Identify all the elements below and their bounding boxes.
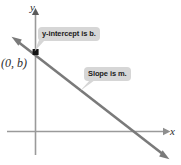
callout-slope: Slope is m.: [84, 67, 131, 81]
callout-tail-slope: [80, 80, 95, 92]
y-axis-label: y: [30, 2, 35, 13]
callout-y-intercept: y-intercept is b.: [38, 27, 100, 41]
graph-canvas: [0, 0, 181, 165]
y-intercept-point-label: (0, b): [1, 57, 27, 69]
x-axis: [7, 128, 171, 135]
linear-equation-figure: y x (0, b) y-intercept is b. Slope is m.: [0, 0, 181, 165]
x-axis-label: x: [170, 126, 175, 137]
